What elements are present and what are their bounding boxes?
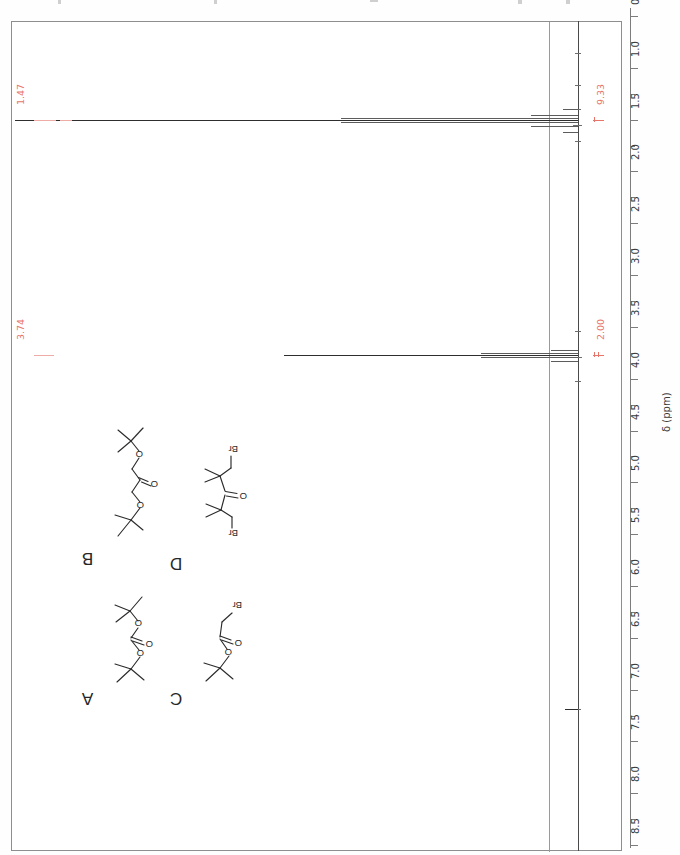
- atom-label-O: O: [151, 479, 158, 490]
- structure-label-C: C: [170, 690, 182, 707]
- atom-label-O: O: [225, 647, 232, 658]
- baseline-tick: [575, 331, 581, 332]
- peak-1-47-base-upper: [531, 115, 578, 116]
- integral-cap-2-00: [594, 352, 595, 357]
- ppm-tick-major: [631, 275, 638, 276]
- ppm-tick-label: 3.5: [631, 300, 641, 316]
- peak-1-47-skirt-lower: [341, 122, 578, 123]
- ppm-tick-label: 4.5: [631, 404, 641, 420]
- ppm-tick-major: [631, 223, 638, 224]
- peak-1-47-skirt-upper: [341, 118, 578, 119]
- structure-C-drawing: O O Br: [182, 588, 254, 690]
- structure-A: O O O: [95, 588, 165, 690]
- ppm-tick-label: 7.5: [631, 714, 641, 730]
- ppm-tick-label: 6.5: [631, 611, 641, 627]
- ppm-tick-label: 1.5: [631, 93, 641, 109]
- axis-title-delta-ppm: δ (ppm): [662, 392, 672, 432]
- peak-1-47-base-lower: [531, 126, 578, 127]
- atom-label-O: O: [240, 491, 247, 502]
- structure-D-drawing: Br Br O: [182, 422, 254, 548]
- ppm-tick-label: 3.0: [631, 248, 641, 264]
- ppm-tick-major: [631, 431, 638, 432]
- structure-B: O O O: [95, 418, 165, 548]
- peak-1-47-foot-lower: [563, 132, 578, 133]
- baseline-tick: [575, 53, 581, 54]
- peak-3-74-skirt-upper: [481, 353, 578, 354]
- ppm-tick-label: 2.0: [631, 144, 641, 160]
- ppm-tick-major: [631, 120, 638, 121]
- ppm-tick-label: 4.0: [631, 352, 641, 368]
- ppm-tick-label: 0.5: [631, 0, 641, 5]
- peak-3-74-base-lower: [551, 361, 578, 362]
- integral-label-2-00: 2.00: [596, 319, 606, 340]
- ppm-tick-major: [631, 482, 638, 483]
- baseline-tick: [575, 141, 581, 142]
- structure-label-A: A: [82, 690, 93, 707]
- ppm-tick-major: [631, 638, 638, 639]
- ppm-tick-label: 7.0: [631, 663, 641, 679]
- ppm-tick-label: 2.5: [631, 196, 641, 212]
- atom-label-Br: Br: [229, 528, 239, 539]
- ppm-tick-label: 8.0: [631, 766, 641, 782]
- structure-label-B: B: [82, 550, 93, 567]
- baseline-tick: [575, 85, 581, 86]
- ppm-tick-major: [631, 741, 638, 742]
- peak-3-74-base-upper: [551, 350, 578, 351]
- nmr-figure-page: 1.47 3.74 9.33 2.00 0.51.01.52.02.53.03.…: [0, 0, 680, 855]
- atom-label-O: O: [137, 500, 144, 511]
- structure-D: Br Br O: [182, 422, 254, 548]
- integral-cap-9-33: [594, 117, 595, 122]
- clipped-edge-artifacts: [0, 0, 680, 8]
- shift-leader-1-47-b: [60, 120, 72, 121]
- ppm-tick-major: [631, 16, 638, 17]
- atom-label-O: O: [136, 449, 143, 460]
- ppm-tick-label: 1.0: [631, 41, 641, 57]
- ppm-tick-label: 5.5: [631, 507, 641, 523]
- ppm-tick-major: [631, 68, 638, 69]
- shift-label-1-47: 1.47: [16, 84, 26, 105]
- atom-label-Br: Br: [229, 444, 239, 455]
- atom-label-O: O: [135, 618, 142, 629]
- ppm-tick-major: [631, 586, 638, 587]
- shift-leader-1-47: [34, 120, 56, 121]
- atom-label-Br: Br: [233, 600, 243, 611]
- spectrum-baseline: [578, 21, 579, 851]
- structure-C: O O Br: [182, 588, 254, 690]
- structure-B-drawing: O O O: [95, 418, 165, 548]
- baseline-tick: [575, 381, 581, 382]
- ppm-tick-major: [631, 327, 638, 328]
- ppm-tick-major: [631, 690, 638, 691]
- structure-label-D: D: [170, 555, 182, 572]
- shift-label-3-74: 3.74: [16, 319, 26, 340]
- integral-label-9-33: 9.33: [596, 84, 606, 105]
- ppm-tick-label: 6.0: [631, 559, 641, 575]
- structure-A-drawing: O O O: [95, 588, 165, 690]
- shift-leader-3-74: [34, 355, 54, 356]
- ppm-tick-major: [631, 379, 638, 380]
- ppm-tick-label: 8.5: [631, 818, 641, 834]
- peak-residual-solvent: [565, 709, 578, 710]
- ppm-tick-major: [631, 793, 638, 794]
- ppm-tick-major: [631, 171, 638, 172]
- ppm-tick-major: [631, 534, 638, 535]
- peak-3-74-skirt-lower: [481, 357, 578, 358]
- atom-label-O: O: [137, 648, 144, 659]
- ppm-tick-label: 5.0: [631, 455, 641, 471]
- atom-label-O: O: [235, 638, 242, 649]
- peak-1-47-foot-upper: [563, 109, 578, 110]
- ppm-tick-major: [631, 845, 638, 846]
- atom-label-O: O: [146, 639, 153, 650]
- integral-cap-2-00-b: [598, 352, 599, 357]
